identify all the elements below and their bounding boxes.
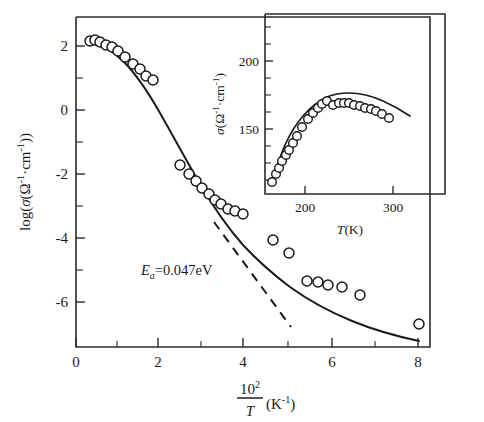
data-point	[323, 280, 333, 290]
xlabel-units-exp: -1	[282, 394, 291, 405]
inset-xlabel-units: (K)	[344, 222, 363, 237]
inset-plot: 200 150 200 300 T(K) σ(Ω-1·cm-1)	[211, 14, 445, 237]
xlabel-numerator-exp: 2	[255, 379, 260, 390]
chart-svg: 2 0 -2 -4 -6 0 2 4 6 8 102 T (K-1)	[0, 0, 484, 422]
inset-data-point	[293, 132, 302, 141]
x-tick-label: 4	[239, 354, 247, 370]
ylabel-exp1: -1	[15, 175, 26, 184]
inset-data-point	[268, 178, 277, 187]
inset-x-ticks	[305, 186, 393, 194]
main-y-ticks	[76, 46, 85, 302]
annot-equals: =	[155, 262, 163, 278]
data-point	[414, 319, 424, 329]
data-point	[302, 276, 312, 286]
inset-xaxis-title: T(K)	[337, 222, 363, 237]
data-point	[148, 75, 158, 85]
activation-energy-annotation: Ea=0.047eV	[140, 262, 213, 281]
data-point	[284, 248, 294, 258]
data-point	[238, 209, 248, 219]
ylabel-fn: log	[17, 211, 33, 231]
inset-x-tick-label: 300	[383, 200, 404, 215]
x-tick-label: 8	[414, 354, 422, 370]
svg-text:log(σ(Ω-1·cm-1)): log(σ(Ω-1·cm-1))	[15, 133, 34, 231]
xlabel-units-close: )	[290, 396, 295, 413]
y-tick-label: 0	[61, 102, 69, 118]
x-tick-label: 0	[72, 354, 80, 370]
inset-y-ticks	[265, 27, 273, 180]
main-x-ticks	[76, 338, 418, 347]
svg-text:102: 102	[240, 379, 260, 397]
inset-ylabel-unit-close: )	[212, 73, 227, 78]
annot-value: 0.047eV	[163, 262, 213, 278]
main-yaxis-title: log(σ(Ω-1·cm-1))	[15, 133, 34, 231]
main-data-markers	[85, 35, 424, 329]
data-point	[268, 235, 278, 245]
inset-data-point	[298, 123, 307, 132]
main-y-ticklabels: 2 0 -2 -4 -6	[56, 38, 69, 310]
inset-y-tick-label: 200	[239, 54, 260, 69]
xlabel-units-open: (K	[266, 396, 282, 413]
svg-text:σ(Ω-1·cm-1): σ(Ω-1·cm-1)	[211, 73, 227, 135]
inset-y-tick-label: 150	[239, 122, 260, 137]
y-tick-label: -6	[56, 294, 69, 310]
xlabel-denominator: T	[246, 403, 256, 419]
inset-x-ticklabels: 200 300	[295, 200, 404, 215]
x-tick-label: 2	[154, 354, 162, 370]
svg-text:Ea=0.047eV: Ea=0.047eV	[140, 262, 213, 281]
x-tick-label: 6	[328, 354, 336, 370]
xlabel-numerator: 10	[240, 381, 255, 397]
ylabel-dot: ·cm	[17, 151, 33, 175]
y-tick-label: -4	[56, 230, 69, 246]
data-point	[313, 277, 323, 287]
data-point	[355, 290, 365, 300]
ylabel-exp2: -1	[15, 143, 26, 152]
inset-y-ticklabels: 200 150	[239, 54, 260, 137]
main-xaxis-title: 102 T (K-1)	[237, 379, 295, 419]
y-tick-label: 2	[61, 38, 69, 54]
figure-container: 2 0 -2 -4 -6 0 2 4 6 8 102 T (K-1)	[0, 0, 484, 422]
inset-ylabel-unit-open: (Ω	[212, 114, 227, 129]
inset-data-point	[385, 114, 394, 123]
data-point	[337, 282, 347, 292]
svg-text:T(K): T(K)	[337, 222, 363, 237]
annot-symbol: E	[140, 262, 150, 278]
ylabel-unit-open: (Ω	[17, 183, 34, 199]
inset-yaxis-title: σ(Ω-1·cm-1)	[211, 73, 227, 135]
svg-text:(K-1): (K-1)	[266, 394, 295, 413]
y-tick-label: -2	[56, 166, 69, 182]
inset-x-tick-label: 200	[295, 200, 316, 215]
data-point	[175, 160, 185, 170]
ylabel-close: )	[17, 133, 34, 138]
inset-ylabel-dot: ·cm	[212, 85, 227, 106]
main-fit-curve-solid	[88, 39, 419, 341]
main-x-ticklabels: 0 2 4 6 8	[72, 354, 422, 370]
main-fit-line-dashed	[214, 222, 291, 327]
